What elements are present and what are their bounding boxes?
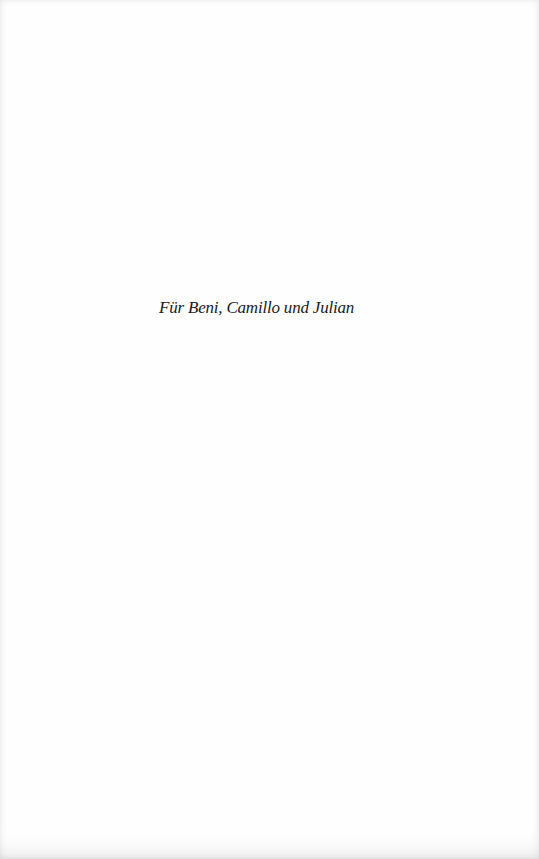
book-page: Für Beni, Camillo und Julian <box>0 0 539 859</box>
dedication-text: Für Beni, Camillo und Julian <box>159 298 354 318</box>
